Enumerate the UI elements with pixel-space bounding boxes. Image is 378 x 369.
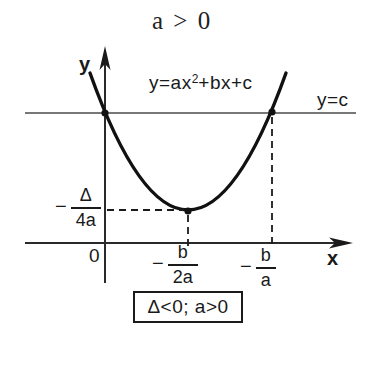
fraction-numerator: Δ xyxy=(75,186,97,207)
x-axis-label: x xyxy=(327,248,338,268)
condition-text: Δ<0; a>0 xyxy=(147,296,228,318)
point-y-intercept xyxy=(101,109,108,116)
point-second-crossing xyxy=(268,108,275,115)
minus-sign: − xyxy=(55,195,67,218)
root-x-value-label: − b a xyxy=(240,246,276,290)
vertex-x-value-label: − b 2a xyxy=(152,243,198,287)
fraction-b-over-2a: b 2a xyxy=(168,243,198,287)
figure-title: a > 0 xyxy=(152,8,212,33)
fraction-delta-over-4a: Δ 4a xyxy=(71,186,101,230)
fraction-denominator: a xyxy=(256,267,276,290)
fraction-numerator: b xyxy=(256,246,276,267)
hline-label: y=c xyxy=(317,90,349,109)
minus-sign: − xyxy=(152,252,164,275)
condition-box: Δ<0; a>0 xyxy=(133,291,243,323)
curve-equation: y=ax2+bx+c xyxy=(149,73,253,92)
fraction-numerator: b xyxy=(173,243,193,264)
parabola-figure: a > 0 y x y=ax2+bx+c y=c 0 − Δ 4a − b 2a… xyxy=(0,0,378,369)
fraction-denominator: 4a xyxy=(71,207,101,230)
parabola-curve xyxy=(90,73,286,210)
origin-label: 0 xyxy=(89,246,100,265)
fraction-denominator: 2a xyxy=(168,264,198,287)
curve-equation-post: +bx+c xyxy=(198,72,252,93)
vertex-y-value-label: − Δ 4a xyxy=(55,186,101,230)
point-vertex xyxy=(184,207,191,214)
fraction-b-over-a: b a xyxy=(256,246,276,290)
minus-sign: − xyxy=(240,255,252,278)
curve-equation-pre: y=ax xyxy=(149,72,192,93)
y-axis-label: y xyxy=(79,54,90,74)
